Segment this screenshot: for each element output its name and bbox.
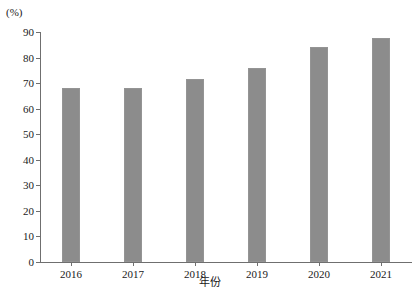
y-axis-tick-label: 60: [23, 103, 34, 114]
y-axis-tick-label: 70: [23, 78, 34, 89]
y-axis-tick-label: 40: [23, 154, 34, 165]
y-axis-tick: [36, 262, 41, 263]
x-axis-tick: [195, 262, 196, 266]
y-axis-tick-label: 20: [23, 205, 34, 216]
x-axis-tick: [381, 262, 382, 266]
bar: [62, 88, 80, 262]
y-axis-unit-label: (%): [6, 6, 23, 19]
y-axis-tick-label: 90: [23, 27, 34, 38]
x-axis-line: [40, 262, 412, 263]
y-axis-tick: [36, 58, 41, 59]
bar: [248, 68, 266, 262]
y-axis-tick-label: 80: [23, 52, 34, 63]
y-axis-tick-label: 10: [23, 231, 34, 242]
bar-chart: (%) 0102030405060708090 2016201720182019…: [0, 0, 419, 305]
y-axis-tick: [36, 185, 41, 186]
y-axis-tick-label: 30: [23, 180, 34, 191]
bar: [310, 47, 328, 262]
y-axis-tick: [36, 83, 41, 84]
y-axis-tick: [36, 32, 41, 33]
y-axis-tick: [36, 236, 41, 237]
y-axis-tick: [36, 109, 41, 110]
y-axis-tick: [36, 211, 41, 212]
x-axis-tick: [257, 262, 258, 266]
y-axis-tick: [36, 134, 41, 135]
x-axis-tick: [319, 262, 320, 266]
plot-area: 0102030405060708090 20162017201820192020…: [40, 32, 412, 262]
y-axis-tick-label: 50: [23, 129, 34, 140]
x-axis-tick: [71, 262, 72, 266]
x-axis-title: 年份: [0, 276, 419, 289]
bar: [124, 88, 142, 262]
y-axis-tick-label: 0: [29, 257, 35, 268]
y-axis-tick: [36, 160, 41, 161]
bar: [186, 79, 204, 262]
x-axis-tick: [133, 262, 134, 266]
y-axis-line: [40, 32, 41, 262]
bar: [372, 38, 390, 262]
